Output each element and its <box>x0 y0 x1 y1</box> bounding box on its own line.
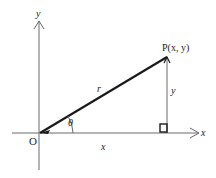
radius-segment: r <box>40 57 167 134</box>
vertical-y-label: y <box>170 85 176 96</box>
right-angle-marker-icon <box>160 124 167 132</box>
vertical-segment: y <box>164 57 176 133</box>
x-axis-label: x <box>200 127 206 138</box>
point-p-label: P(x, y) <box>162 42 189 54</box>
angle-theta: θ <box>68 116 73 133</box>
theta-label: θ <box>68 117 73 128</box>
origin-label: O <box>29 135 37 147</box>
horizontal-x-label: x <box>100 141 106 152</box>
polar-coordinates-diagram: x y O r y θ x P(x, y) <box>0 0 216 178</box>
radius-label: r <box>97 83 101 94</box>
y-axis-label: y <box>35 8 41 19</box>
